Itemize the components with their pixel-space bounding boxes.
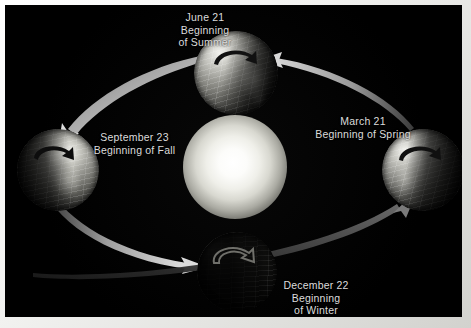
rotation-arrow-icon [393,141,449,171]
globe-march-21 [382,129,462,211]
label-september-23: September 23 Beginning of Fall [72,131,197,156]
label-june-21: June 21 Beginning of Summer [150,11,260,49]
rotation-arrow-icon [208,44,264,74]
seasons-diagram-figure: June 21 Beginning of Summer September 23… [0,0,471,328]
rotation-arrow-icon [207,241,263,273]
label-december-22: December 22 Beginning of Winter [260,279,372,317]
diagram-canvas: June 21 Beginning of Summer September 23… [5,5,462,317]
label-march-21: March 21 Beginning of Spring [298,115,428,140]
